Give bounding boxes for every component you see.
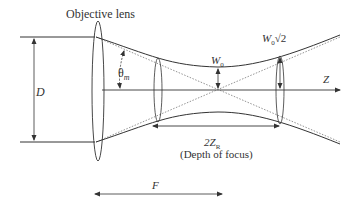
aperture-label: D (36, 86, 45, 98)
diagram-canvas (0, 0, 357, 208)
depth-symbol: 2Z (204, 136, 216, 148)
focal-length-label: F (152, 180, 159, 191)
angle-subscript: m (124, 73, 130, 82)
axis-label: Z (323, 74, 329, 85)
waist-label: W0 (211, 55, 224, 69)
rayleigh-width-label: W0√2 (262, 33, 286, 47)
angle-label: θm (118, 67, 130, 82)
sqrt2-factor: √2 (275, 32, 287, 44)
objective-lens-label: Objective lens (66, 8, 135, 20)
gaussian-beam-focus-diagram: Objective lens D θm W0 W0√2 Z 2ZR (Depth… (0, 0, 357, 208)
waist-subscript: 0 (220, 61, 224, 69)
waist-symbol: W (211, 54, 220, 66)
depth-caption: (Depth of focus) (180, 149, 253, 160)
rayleigh-width-symbol: W (262, 32, 271, 44)
